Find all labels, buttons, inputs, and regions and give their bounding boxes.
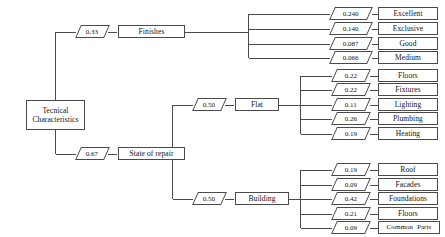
node-state-of-repair[interactable]: State of repair [118,147,185,160]
weight-building-facades: 0.09 [331,178,371,191]
leaf-building-roof-label: Roof [379,166,437,174]
leaf-good[interactable]: Good [378,37,438,50]
leaf-building-facades-label: Facades [379,181,437,189]
leaf-exclusive-label: Exclusive [379,25,437,33]
node-finishes[interactable]: Finishes [118,25,185,38]
weight-flat-fixtures-value: 0.22 [345,86,357,94]
node-flat[interactable]: Flat [235,98,279,111]
weight-state-of-repair-value: 0.67 [86,150,98,158]
node-building-label: Building [236,195,288,203]
weight-building-foundations: 0.42 [331,192,371,205]
leaf-building-floors[interactable]: Floors [378,207,438,220]
weight-flat-lighting: 0.11 [331,98,371,111]
weight-building-common-parts-value: 0.09 [345,224,357,232]
root-node-line2: Characteristics [32,115,78,124]
weight-good-value: 0.087 [343,40,359,48]
weight-building: 0.50 [192,192,227,205]
leaf-building-floors-label: Floors [379,210,437,218]
weight-building-floors-value: 0.21 [345,210,357,218]
weight-building-value: 0.50 [203,195,215,203]
weight-building-facades-value: 0.09 [345,181,357,189]
leaf-building-common-parts[interactable]: Common Parts [378,221,440,234]
weight-building-roof: 0.19 [331,163,371,176]
weight-flat-fixtures: 0.22 [331,83,371,96]
leaf-exclusive[interactable]: Exclusive [378,22,438,35]
leaf-flat-plumbing-label: Plumbing [379,115,437,123]
leaf-good-label: Good [379,40,437,48]
leaf-flat-fixtures-label: Fixtures [379,86,437,94]
weight-flat-floors: 0.22 [331,69,371,82]
weight-excellent-value: 0.240 [343,10,359,18]
weight-exclusive-value: 0.140 [343,25,359,33]
node-state-of-repair-label: State of repair [119,150,184,158]
leaf-flat-heating-label: Heating [379,130,437,138]
leaf-building-common-parts-label: Common Parts [379,224,439,231]
node-finishes-label: Finishes [119,28,184,36]
leaf-flat-lighting[interactable]: Lighting [378,98,438,111]
leaf-flat-floors-label: Floors [379,72,437,80]
leaf-medium[interactable]: Medium [378,51,438,64]
leaf-flat-plumbing[interactable]: Plumbing [378,112,438,125]
node-building[interactable]: Building [235,192,289,205]
node-flat-label: Flat [236,101,278,109]
leaf-building-foundations-label: Foundations [379,195,437,203]
weight-flat: 0.50 [192,98,227,111]
weight-finishes-value: 0.33 [86,28,98,36]
weight-flat-heating: 0.19 [331,127,371,140]
tree-diagram-canvas: Tecnical Characteristics 0.33 0.67 Finis… [0,0,445,237]
leaf-medium-label: Medium [379,54,437,62]
weight-flat-plumbing-value: 0.26 [345,115,357,123]
weight-building-common-parts: 0.09 [331,221,371,234]
leaf-flat-floors[interactable]: Floors [378,69,438,82]
leaf-building-foundations[interactable]: Foundations [378,192,438,205]
leaf-flat-heating[interactable]: Heating [378,127,438,140]
weight-exclusive: 0.140 [329,22,373,35]
weight-medium: 0.066 [329,51,373,64]
weight-flat-heating-value: 0.19 [345,130,357,138]
weight-flat-lighting-value: 0.11 [345,101,357,109]
leaf-excellent[interactable]: Excellent [378,7,438,20]
leaf-building-roof[interactable]: Roof [378,163,438,176]
weight-flat-value: 0.50 [203,101,215,109]
root-node-line1: Tecnical [42,106,68,115]
weight-building-floors: 0.21 [331,207,371,220]
leaf-excellent-label: Excellent [379,10,437,18]
leaf-flat-fixtures[interactable]: Fixtures [378,83,438,96]
leaf-building-facades[interactable]: Facades [378,178,438,191]
weight-medium-value: 0.066 [343,54,359,62]
leaf-flat-lighting-label: Lighting [379,101,437,109]
weight-flat-plumbing: 0.26 [331,112,371,125]
weight-flat-floors-value: 0.22 [345,72,357,80]
weight-good: 0.087 [329,37,373,50]
root-node[interactable]: Tecnical Characteristics [26,100,85,130]
weight-building-roof-value: 0.19 [345,166,357,174]
weight-building-foundations-value: 0.42 [345,195,357,203]
weight-finishes: 0.33 [75,25,110,38]
weight-state-of-repair: 0.67 [75,147,110,160]
weight-excellent: 0.240 [329,7,373,20]
